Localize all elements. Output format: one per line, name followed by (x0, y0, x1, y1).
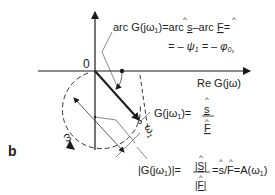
magnitude-numerator: |S| (195, 161, 207, 172)
phase-angle-marker (102, 32, 124, 89)
phase-equation-line2: = – ψ1 = – φ0s (168, 40, 234, 54)
g-denominator: F (204, 122, 211, 134)
hat-f-icon: ^ (232, 15, 236, 24)
panel-label: b (8, 143, 17, 159)
polar-diagram: 0 Re G(jω) arc G(jω1)=arc s–arc F= ^ ^ =… (0, 0, 275, 195)
hat-f-icon: ^ (229, 157, 233, 166)
real-axis-label: Re G(jω) (197, 77, 241, 89)
g-numerator: s (204, 103, 210, 115)
transfer-function-label: G(jω1)= (154, 107, 191, 120)
omega1-label: ω1 (141, 122, 159, 139)
hat-s-icon: ^ (219, 157, 223, 166)
phase-equation-line1: arc G(jω1)=arc s–arc F= (113, 21, 230, 34)
g-vector (95, 71, 142, 124)
origin-label: 0 (83, 57, 90, 71)
magnitude-equation-left: |G(jω1)|= (138, 164, 181, 177)
frequency-locus-circle (62, 73, 148, 149)
magnitude-denominator: |F| (195, 180, 206, 191)
hat-s-icon: ^ (183, 15, 187, 24)
magnitude-leader (116, 112, 150, 159)
omega-label: ω (59, 131, 74, 145)
